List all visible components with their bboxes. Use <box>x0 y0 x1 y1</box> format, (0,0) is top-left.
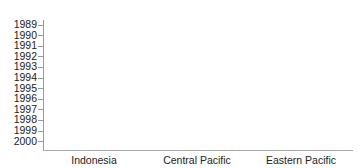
y-tick-mark <box>38 78 43 79</box>
y-tick-mark <box>38 56 43 57</box>
y-tick-mark <box>38 35 43 36</box>
y-tick-label: 2000 <box>14 136 37 147</box>
y-tick-mark <box>38 141 43 142</box>
x-tick-label: Central Pacific <box>163 154 231 166</box>
y-tick-mark <box>38 88 43 89</box>
y-tick-mark <box>38 99 43 100</box>
y-tick-mark <box>38 67 43 68</box>
y-tick-mark <box>38 131 43 132</box>
y-tick-mark <box>38 46 43 47</box>
y-axis-line <box>43 20 44 151</box>
y-tick-mark <box>38 25 43 26</box>
y-tick-mark <box>38 109 43 110</box>
y-tick-mark <box>38 120 43 121</box>
x-axis-line <box>43 150 353 151</box>
x-tick-label: Indonesia <box>71 154 117 166</box>
x-tick-label: Eastern Pacific <box>266 154 336 166</box>
